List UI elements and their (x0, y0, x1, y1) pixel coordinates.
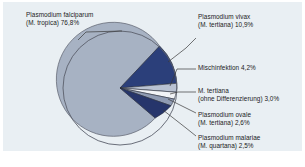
slice-label-malariae-line1: Plasmodium malariae (198, 134, 260, 142)
slice-label-ovale-line2: (M. tertiana) 2,6% (198, 119, 251, 127)
slice-label-ovale: Plasmodium ovale (M. tertiana) 2,6% (198, 111, 251, 126)
slice-label-vivax-line1: Plasmodium vivax (198, 13, 253, 21)
slice-label-tertiana-undiff-line1: M. tertiana (198, 87, 279, 95)
pie-slices (56, 22, 177, 136)
slice-label-tertiana-undiff-line2: (ohne Differenzierung) 3,0% (198, 95, 279, 103)
slice-label-malariae: Plasmodium malariae (M. quartana) 2,5% (198, 134, 260, 149)
slice-label-ovale-line1: Plasmodium ovale (198, 111, 251, 119)
slice-label-vivax-line2: (M. tertiana) 10,9% (198, 21, 253, 29)
slice-label-vivax: Plasmodium vivax (M. tertiana) 10,9% (198, 13, 253, 28)
leader-line-malariae (163, 110, 196, 136)
slice-label-tertiana-undiff: M. tertiana (ohne Differenzierung) 3,0% (198, 87, 279, 102)
slice-label-mischinfektion-line1: Mischinfektion 4,2% (198, 64, 256, 72)
leader-line-vivax (168, 38, 196, 62)
slice-label-falciparum: Plasmodium falciparum (M. tropica) 76,8% (26, 11, 93, 26)
pie-chart-figure: Plasmodium falciparum (M. tropica) 76,8%… (0, 0, 305, 167)
slice-label-falciparum-line2: (M. tropica) 76,8% (26, 19, 93, 27)
slice-label-mischinfektion: Mischinfektion 4,2% (198, 64, 256, 72)
slice-label-falciparum-line1: Plasmodium falciparum (26, 11, 93, 19)
slice-label-malariae-line2: (M. quartana) 2,5% (198, 142, 260, 150)
